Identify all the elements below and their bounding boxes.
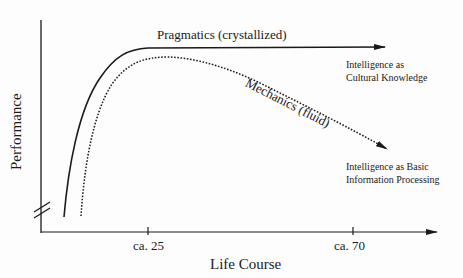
x-axis-label: Life Course: [210, 256, 281, 273]
basic-processing-line2: Information Processing: [346, 173, 440, 186]
tick-label-70: ca. 70: [334, 238, 365, 254]
pragmatics-curve: [64, 47, 385, 217]
basic-processing-line1: Intelligence as Basic: [346, 160, 429, 173]
tick-label-25: ca. 25: [133, 238, 164, 254]
cultural-knowledge-line2: Cultural Knowledge: [346, 71, 427, 84]
cultural-knowledge-line1: Intelligence as: [346, 58, 404, 71]
lifespan-intelligence-diagram: Pragmatics (crystallized) Mechanics (flu…: [0, 0, 463, 278]
y-axis-label: Performance: [8, 93, 25, 170]
axis-break-icon: [34, 202, 50, 218]
mechanics-curve: [81, 57, 387, 216]
pragmatics-label: Pragmatics (crystallized): [157, 27, 287, 43]
